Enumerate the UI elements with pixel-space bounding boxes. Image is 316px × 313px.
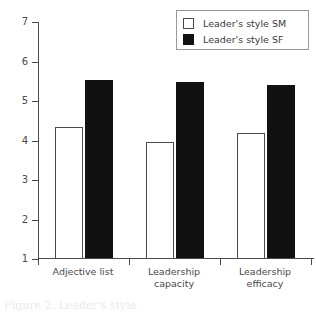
y-axis-tick-label-1: 1 (0, 254, 28, 264)
filled-square-swatch-icon (183, 34, 194, 45)
bar-sf-leadership-efficacy (267, 85, 295, 259)
bar-sm-leadership-capacity (146, 142, 174, 259)
y-axis-tick-label-5: 5 (0, 96, 28, 106)
legend-label-sm: Leader's style SM (203, 18, 286, 29)
y-axis-tick-label-7: 7 (0, 17, 28, 27)
y-axis-tick-label-6: 6 (0, 57, 28, 67)
legend-item-sm: Leader's style SM (183, 16, 302, 30)
x-axis-category-line: Leadership (128, 266, 220, 278)
figure-caption: Figure 2. Leader's style (4, 300, 312, 312)
bar-sf-adjective-list (85, 80, 113, 259)
x-axis-tick-2 (220, 259, 221, 265)
x-axis-line (38, 258, 314, 259)
x-axis-tick-3 (311, 259, 312, 265)
bar-sf-leadership-capacity (176, 82, 204, 259)
x-axis-category-line: Leadership (219, 266, 311, 278)
x-axis-category-label-leadership-capacity: Leadership capacity (128, 266, 220, 289)
x-axis-tick-0 (38, 259, 39, 265)
legend-label-sf: Leader's style SF (203, 34, 283, 45)
bar-sm-adjective-list (55, 127, 83, 259)
bar-sm-leadership-efficacy (237, 133, 265, 259)
x-axis-category-line: capacity (128, 278, 220, 290)
bar-chart-figure: 7 6 5 4 3 2 1 Adjective list Leadership … (0, 0, 316, 313)
x-axis-category-label-adjective-list: Adjective list (37, 266, 129, 278)
plot-area (38, 22, 310, 259)
y-axis-tick-label-4: 4 (0, 136, 28, 146)
legend-item-sf: Leader's style SF (183, 32, 302, 46)
x-axis-category-line: Adjective list (37, 266, 129, 278)
legend: Leader's style SM Leader's style SF (176, 10, 309, 50)
y-axis-tick-label-3: 3 (0, 175, 28, 185)
y-axis-tick-label-2: 2 (0, 215, 28, 225)
x-axis-category-label-leadership-efficacy: Leadership efficacy (219, 266, 311, 289)
x-axis-tick-1 (129, 259, 130, 265)
x-axis-category-line: efficacy (219, 278, 311, 290)
open-square-swatch-icon (183, 18, 194, 29)
